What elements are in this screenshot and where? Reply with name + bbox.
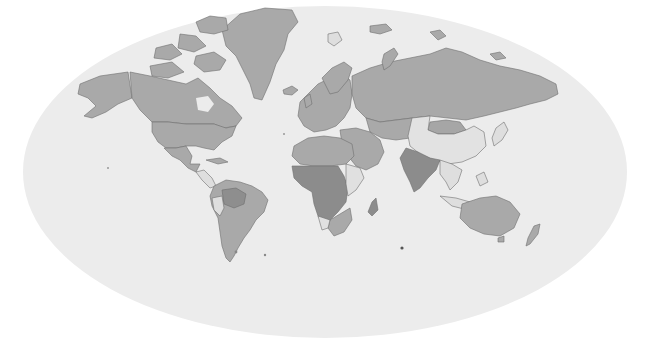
island-hawaii — [107, 167, 109, 169]
world-map — [0, 0, 649, 345]
map-canvas — [0, 0, 649, 345]
island-south-atlantic — [264, 254, 266, 256]
island-falklands — [235, 251, 238, 254]
island-azores — [283, 133, 285, 135]
island-kerguelen — [400, 246, 403, 249]
